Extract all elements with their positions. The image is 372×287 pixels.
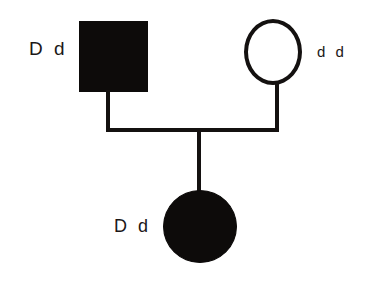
mother-descender-line xyxy=(275,83,279,132)
mating-line xyxy=(106,128,279,132)
child-descender-line xyxy=(197,128,201,196)
mother-genotype-label: d d xyxy=(317,44,347,59)
mother-unaffected-female-circle xyxy=(244,19,302,85)
pedigree-chart: D d d d D d xyxy=(0,0,372,287)
father-genotype-label: D d xyxy=(29,39,68,58)
father-descender-line xyxy=(106,90,110,132)
father-affected-male-square xyxy=(79,21,148,92)
child-affected-female-circle xyxy=(163,190,237,263)
child-genotype-label: D d xyxy=(114,217,151,235)
